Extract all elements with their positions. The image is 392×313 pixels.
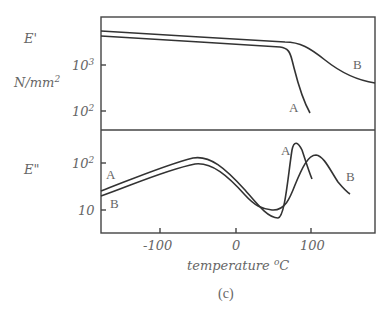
ytick-base: 10 [72, 58, 89, 73]
ytick-base: 10 [72, 104, 89, 119]
unit-exp: 2 [54, 74, 60, 84]
label-upper-A: A [289, 101, 298, 114]
plot-frame [101, 17, 375, 233]
ytick-upper-1e3: 103 [72, 58, 94, 72]
ytick-base: 10 [78, 203, 95, 218]
unit-text: N/mm [14, 75, 54, 90]
ytick-lower-1e2: 102 [72, 156, 94, 170]
label-lower-B-right: B [346, 170, 355, 183]
ytick-upper-1e2: 102 [72, 104, 94, 118]
xtick-0: 0 [232, 239, 240, 252]
lower-ylabel: E" [24, 163, 39, 176]
label-lower-A-peak: A [281, 144, 290, 157]
x-axis-label: temperature oC [187, 258, 289, 272]
xlabel-text: temperature [187, 258, 270, 273]
panel-label: (c) [218, 287, 234, 301]
xlabel-unit: C [279, 258, 289, 273]
curve-lower-B [101, 155, 350, 210]
label-upper-B: B [353, 58, 362, 71]
curve-upper-A [101, 36, 310, 113]
xtick-100: 100 [300, 239, 325, 252]
xtick-minus100: -100 [143, 239, 172, 252]
ytick-lower-1e1: 10 [78, 204, 95, 217]
ytick-exp: 2 [89, 155, 95, 165]
unit-label: N/mm2 [14, 75, 60, 89]
label-lower-B-left: B [110, 197, 119, 210]
label-lower-A-left: A [106, 168, 115, 181]
ytick-base: 10 [72, 156, 89, 171]
ytick-exp: 2 [89, 103, 95, 113]
upper-ylabel: E' [24, 32, 37, 45]
ytick-exp: 3 [89, 57, 95, 67]
